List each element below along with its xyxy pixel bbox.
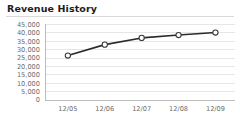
data-point-marker[interactable] bbox=[213, 30, 218, 35]
y-axis-tick-label: 10,000 bbox=[17, 80, 40, 88]
series-group bbox=[65, 30, 218, 58]
y-axis-tick-label: 45,000 bbox=[17, 21, 40, 29]
x-axis-tick-label: 12/08 bbox=[169, 105, 188, 113]
title-divider bbox=[6, 16, 234, 17]
data-point-marker[interactable] bbox=[139, 35, 144, 40]
revenue-history-chart-panel: Revenue History 05,00010,00015,00020,000… bbox=[0, 0, 240, 119]
x-axis-tick-label: 12/06 bbox=[95, 105, 114, 113]
page-title: Revenue History bbox=[7, 3, 97, 14]
y-axis-tick-label: 15,000 bbox=[17, 71, 40, 79]
x-axis-tick-labels: 12/0512/0612/0712/0812/09 bbox=[58, 105, 225, 113]
y-axis-tick-label: 40,000 bbox=[17, 29, 40, 37]
y-axis-tick-label: 30,000 bbox=[17, 46, 40, 54]
y-axis-tick-label: 20,000 bbox=[17, 63, 40, 71]
x-axis-tick-label: 12/09 bbox=[206, 105, 225, 113]
data-point-marker[interactable] bbox=[65, 53, 70, 58]
x-axis-tick-label: 12/07 bbox=[132, 105, 151, 113]
chart-plot-area: 05,00010,00015,00020,00025,00030,00035,0… bbox=[0, 18, 240, 119]
y-axis-tick-label: 5,000 bbox=[21, 88, 40, 96]
y-axis-tick-labels: 05,00010,00015,00020,00025,00030,00035,0… bbox=[17, 21, 40, 105]
line-chart-svg: 05,00010,00015,00020,00025,00030,00035,0… bbox=[0, 18, 240, 119]
y-axis-tick-label: 35,000 bbox=[17, 38, 40, 46]
y-axis-tick-label: 25,000 bbox=[17, 54, 40, 62]
data-point-marker[interactable] bbox=[102, 42, 107, 47]
x-axis-tick-label: 12/05 bbox=[58, 105, 77, 113]
data-point-marker[interactable] bbox=[176, 32, 181, 37]
y-axis-tick-label: 0 bbox=[36, 96, 40, 104]
